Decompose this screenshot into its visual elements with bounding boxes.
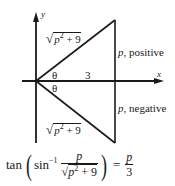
tan-function: tan [6, 157, 22, 173]
lower-hypotenuse-label: √p2 + 9 [46, 122, 81, 138]
identity-formula: tan ( sin−1 p √p2 + 9 ) = p 3 [6, 150, 134, 180]
y-axis-label: y [41, 10, 45, 19]
label-text: , positive [124, 46, 164, 58]
upper-hypotenuse-label: √p2 + 9 [46, 31, 81, 47]
sin-argument-fraction: p √p2 + 9 [61, 150, 98, 180]
constant: + 9 [64, 33, 81, 45]
upper-angle-label: θ [52, 70, 57, 81]
close-paren: ) [101, 150, 107, 180]
y-axis-arrow-icon [33, 12, 39, 22]
x-axis-label: x [157, 70, 161, 79]
equals-sign: = [113, 157, 120, 173]
label-text: , negative [124, 102, 167, 114]
inverse-exponent: −1 [49, 156, 58, 165]
constant: + 9 [64, 124, 81, 136]
upper-hypotenuse [36, 20, 115, 81]
fraction-denominator: √p2 + 9 [61, 163, 98, 179]
constant: + 9 [78, 165, 97, 179]
sin-function: sin [34, 157, 49, 173]
rhs-numerator: p [126, 151, 132, 164]
negative-side-label: p, negative [118, 103, 166, 114]
lower-angle-label: θ [52, 83, 57, 94]
rhs-denominator: 3 [125, 164, 133, 179]
adjacent-label: 3 [85, 70, 91, 81]
fraction-numerator: p [76, 150, 82, 163]
positive-side-label: p, positive [118, 47, 164, 58]
open-paren: ( [26, 150, 32, 180]
rhs-fraction: p 3 [125, 151, 133, 180]
